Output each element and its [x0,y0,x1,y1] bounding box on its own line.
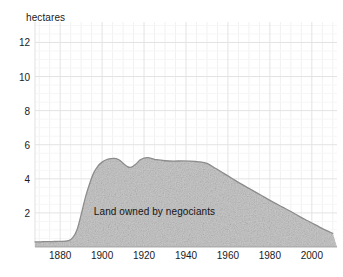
chart-container: hectares 24681012 1880190019201940196019… [0,0,343,277]
x-tick-label-2000: 2000 [301,250,323,261]
area-series-land-owned-by-negociants [35,158,337,247]
x-tick-label-1980: 1980 [259,250,281,261]
x-tick-label-1960: 1960 [217,250,239,261]
x-tick-label-1940: 1940 [175,250,197,261]
x-tick-label-1920: 1920 [133,250,155,261]
plot-area [0,0,343,277]
series-annotation-label: Land owned by negociants [94,206,215,217]
x-tick-label-1900: 1900 [91,250,113,261]
x-tick-label-1880: 1880 [49,250,71,261]
